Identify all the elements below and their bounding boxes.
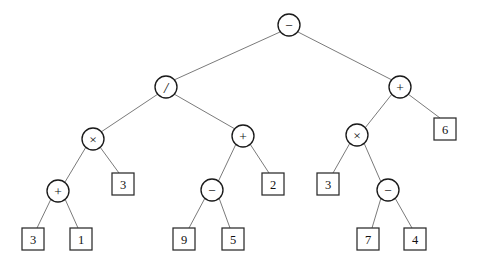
leaf-node[interactable]: 3 — [22, 228, 44, 250]
operator-node-label: × — [89, 132, 97, 147]
leaf-node-label: 1 — [78, 233, 84, 247]
tree-edge — [174, 32, 280, 80]
tree-edge — [101, 94, 158, 132]
tree-edge — [333, 143, 350, 173]
leaf-node[interactable]: 5 — [222, 228, 244, 250]
operator-node-label: + — [54, 184, 62, 199]
operator-node[interactable]: − — [278, 14, 300, 36]
operator-node-label: − — [208, 183, 216, 198]
tree-edge — [37, 199, 51, 228]
tree-edge — [408, 94, 440, 118]
operator-node[interactable]: × — [346, 124, 368, 146]
operator-node-label: − — [285, 18, 293, 33]
leaf-node[interactable]: 3 — [317, 173, 339, 195]
operator-node[interactable]: + — [389, 76, 411, 98]
leaf-node-label: 3 — [120, 178, 126, 192]
leaf-node[interactable]: 2 — [262, 173, 284, 195]
operator-node[interactable]: − — [377, 179, 399, 201]
operator-node[interactable]: × — [82, 128, 104, 150]
leaf-node[interactable]: 7 — [357, 228, 379, 250]
leaf-node[interactable]: 4 — [404, 228, 426, 250]
leaf-node[interactable]: 3 — [112, 173, 134, 195]
tree-edge — [372, 198, 381, 228]
leaf-node-label: 3 — [325, 178, 331, 192]
tree-edge — [189, 198, 205, 228]
tree-edge — [250, 144, 269, 173]
leaf-node[interactable]: 6 — [434, 118, 456, 140]
tree-edge — [395, 198, 412, 228]
tree-nodes-group: −/+×+×6+3−23−319574 — [22, 14, 456, 250]
leaf-node[interactable]: 1 — [70, 228, 92, 250]
operator-node-label: + — [239, 129, 247, 144]
expression-tree-canvas: −/+×+×6+3−23−319574 — [0, 0, 478, 272]
tree-edge — [365, 94, 392, 128]
tree-edge — [65, 147, 86, 182]
leaf-node-label: 4 — [412, 233, 419, 247]
tree-edge — [219, 198, 230, 228]
leaf-node-label: 7 — [365, 233, 371, 247]
tree-edge — [298, 32, 392, 80]
expression-tree-figure: −/+×+×6+3−23−319574 — [0, 0, 478, 272]
operator-node-label: × — [353, 128, 361, 143]
operator-node[interactable]: − — [201, 179, 223, 201]
tree-edge — [174, 94, 235, 129]
tree-edge — [364, 143, 381, 182]
tree-edge — [65, 199, 78, 228]
leaf-node-label: 2 — [270, 178, 276, 192]
leaf-node-label: 3 — [30, 233, 36, 247]
operator-node[interactable]: / — [155, 76, 177, 98]
operator-node[interactable]: + — [232, 125, 254, 147]
leaf-node-label: 9 — [181, 233, 187, 247]
leaf-node-label: 5 — [230, 233, 236, 247]
tree-edge — [218, 144, 236, 182]
operator-node[interactable]: + — [47, 180, 69, 202]
leaf-node-label: 6 — [442, 123, 448, 137]
tree-edge — [100, 147, 119, 173]
leaf-node[interactable]: 9 — [173, 228, 195, 250]
operator-node-label: + — [396, 80, 404, 95]
operator-node-label: − — [384, 183, 392, 198]
